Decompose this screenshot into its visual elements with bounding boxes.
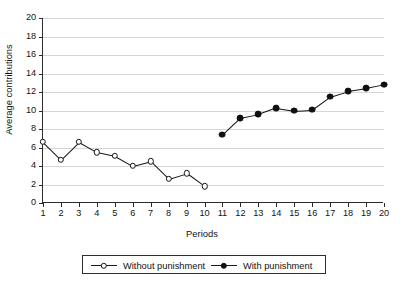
y-tick-mark <box>39 129 43 130</box>
x-tick-mark <box>133 203 134 207</box>
x-tick-mark <box>61 203 62 207</box>
x-tick-label: 6 <box>130 209 135 218</box>
data-point-marker <box>201 183 207 189</box>
x-tick-label: 1 <box>40 209 45 218</box>
data-point-marker <box>58 156 64 162</box>
y-tick-mark <box>39 18 43 19</box>
data-point-marker <box>273 104 280 111</box>
gridline <box>43 55 384 56</box>
data-point-marker <box>291 107 298 114</box>
x-tick-label: 18 <box>343 209 353 218</box>
x-tick-mark <box>97 203 98 207</box>
gridline <box>43 166 384 167</box>
x-tick-mark <box>366 203 367 207</box>
data-point-marker <box>219 131 226 138</box>
x-tick-mark <box>115 203 116 207</box>
x-tick-mark <box>276 203 277 207</box>
x-tick-label: 14 <box>271 209 281 218</box>
legend-entry-with-punishment: With punishment <box>211 256 312 275</box>
chart-legend: Without punishment With punishment <box>82 255 326 274</box>
gridline <box>43 92 384 93</box>
filled-circle-marker-icon <box>211 261 237 271</box>
y-tick-mark <box>39 148 43 149</box>
gridline <box>43 18 384 19</box>
y-tick-label: 10 <box>26 106 36 115</box>
x-tick-mark <box>312 203 313 207</box>
y-tick-label: 14 <box>26 69 36 78</box>
x-axis-title: Periods <box>0 228 404 239</box>
x-tick-label: 17 <box>325 209 335 218</box>
x-tick-label: 12 <box>235 209 245 218</box>
y-tick-label: 18 <box>26 32 36 41</box>
legend-entry-without-punishment: Without punishment <box>91 256 205 275</box>
x-tick-label: 15 <box>289 209 299 218</box>
y-tick-label: 8 <box>31 124 36 133</box>
gridline <box>43 74 384 75</box>
x-tick-label: 13 <box>253 209 263 218</box>
legend-label: Without punishment <box>123 261 205 271</box>
x-tick-label: 10 <box>199 209 209 218</box>
legend-label: With punishment <box>243 261 312 271</box>
y-tick-label: 2 <box>31 180 36 189</box>
x-tick-mark <box>205 203 206 207</box>
x-tick-mark <box>384 203 385 207</box>
x-tick-label: 3 <box>76 209 81 218</box>
data-point-marker <box>327 93 334 100</box>
x-tick-label: 2 <box>58 209 63 218</box>
x-tick-mark <box>79 203 80 207</box>
y-tick-label: 12 <box>26 87 36 96</box>
x-tick-label: 7 <box>148 209 153 218</box>
y-tick-mark <box>39 185 43 186</box>
x-tick-label: 4 <box>94 209 99 218</box>
data-point-marker <box>165 176 171 182</box>
data-point-marker <box>309 106 316 113</box>
x-tick-mark <box>330 203 331 207</box>
y-tick-label: 20 <box>26 13 36 22</box>
x-tick-label: 8 <box>166 209 171 218</box>
y-tick-label: 4 <box>31 161 36 170</box>
data-point-marker <box>363 85 370 92</box>
x-tick-label: 19 <box>361 209 371 218</box>
y-tick-label: 6 <box>31 143 36 152</box>
data-point-marker <box>345 88 352 95</box>
y-tick-mark <box>39 37 43 38</box>
y-axis-title: Average contributions <box>3 10 14 170</box>
data-point-marker <box>237 114 244 121</box>
open-circle-marker-icon <box>91 261 117 271</box>
x-tick-label: 5 <box>112 209 117 218</box>
x-tick-mark <box>43 203 44 207</box>
data-point-marker <box>255 111 262 118</box>
gridline <box>43 129 384 130</box>
y-tick-mark <box>39 74 43 75</box>
y-tick-mark <box>39 55 43 56</box>
x-tick-label: 16 <box>307 209 317 218</box>
x-tick-mark <box>222 203 223 207</box>
x-tick-mark <box>169 203 170 207</box>
x-tick-mark <box>187 203 188 207</box>
x-tick-label: 20 <box>379 209 389 218</box>
y-tick-mark <box>39 111 43 112</box>
x-tick-mark <box>258 203 259 207</box>
x-tick-mark <box>294 203 295 207</box>
gridline <box>43 37 384 38</box>
gridline <box>43 185 384 186</box>
y-tick-label: 0 <box>31 198 36 207</box>
gridline <box>43 111 384 112</box>
data-point-marker <box>381 81 388 88</box>
plot-area: 02468101214161820 1234567891011121314151… <box>42 18 383 203</box>
x-tick-mark <box>348 203 349 207</box>
y-tick-mark <box>39 92 43 93</box>
x-tick-mark <box>151 203 152 207</box>
y-tick-mark <box>39 166 43 167</box>
y-tick-label: 16 <box>26 50 36 59</box>
x-tick-label: 9 <box>184 209 189 218</box>
x-tick-mark <box>240 203 241 207</box>
data-point-marker <box>94 149 100 155</box>
x-tick-label: 11 <box>218 209 228 218</box>
data-point-marker <box>130 163 136 169</box>
line-chart-figure: Average contributions 02468101214161820 … <box>0 0 404 285</box>
